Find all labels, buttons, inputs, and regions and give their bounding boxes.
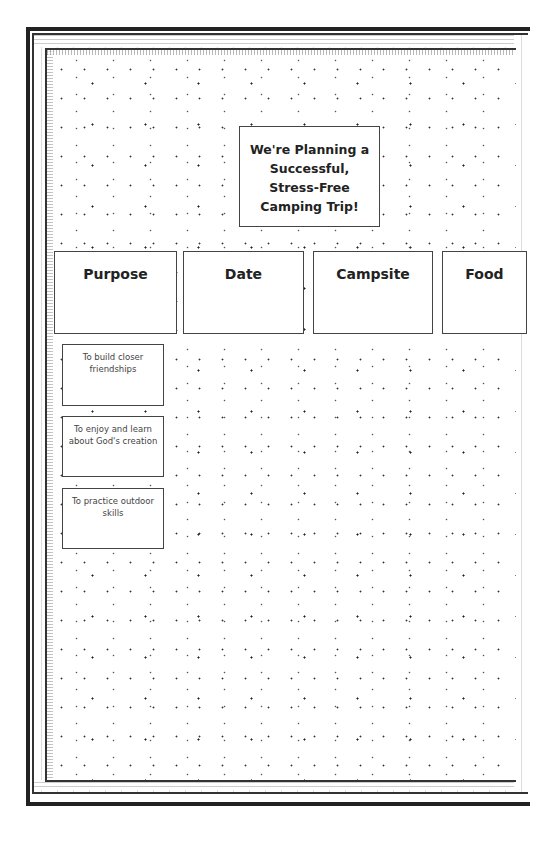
purpose-item-card: To practice outdoor skills bbox=[62, 488, 164, 549]
board-inner-shadow-left bbox=[47, 50, 53, 778]
category-card-campsite: Campsite bbox=[313, 251, 433, 334]
title-card: We're Planning a Successful, Stress-Free… bbox=[239, 126, 380, 227]
purpose-item-text: To practice outdoor skills bbox=[72, 496, 154, 518]
purpose-item-card: To enjoy and learn about God's creation bbox=[62, 416, 164, 477]
title-line: Successful, bbox=[240, 159, 379, 178]
title-line: Camping Trip! bbox=[240, 197, 379, 216]
category-card-purpose: Purpose bbox=[54, 251, 177, 334]
purpose-item-card: To build closer friendships bbox=[62, 344, 164, 406]
category-label: Food bbox=[465, 266, 503, 282]
purpose-item-text: To build closer friendships bbox=[83, 352, 144, 374]
title-line: We're Planning a bbox=[240, 140, 379, 159]
category-label: Campsite bbox=[336, 266, 410, 282]
title-line: Stress-Free bbox=[240, 178, 379, 197]
category-label: Purpose bbox=[83, 266, 148, 282]
board-inner-shadow-top bbox=[47, 50, 514, 55]
category-label: Date bbox=[225, 266, 262, 282]
purpose-item-text: To enjoy and learn about God's creation bbox=[69, 424, 158, 446]
category-card-food: Food bbox=[442, 251, 527, 334]
category-card-date: Date bbox=[183, 251, 304, 334]
frame-top-grain bbox=[34, 35, 514, 47]
